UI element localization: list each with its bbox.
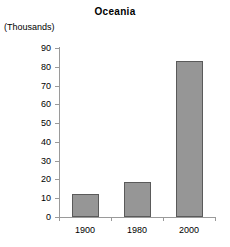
y-tick-label: 30 [29, 157, 51, 166]
y-tick-mark [55, 123, 59, 124]
y-tick-mark [55, 179, 59, 180]
x-tick-mark [215, 217, 216, 221]
y-tick-mark [55, 142, 59, 143]
y-tick-mark [55, 104, 59, 105]
bar-1980 [124, 182, 151, 217]
y-tick-label: 10 [29, 194, 51, 203]
y-tick-label: 90 [29, 44, 51, 53]
bar-2000 [176, 61, 203, 217]
y-tick-label: 20 [29, 175, 51, 184]
y-tick-label: 80 [29, 63, 51, 72]
x-tick-mark [59, 217, 60, 221]
x-tick-mark [163, 217, 164, 221]
bar-1900 [72, 194, 99, 217]
x-tick-label: 1980 [117, 225, 157, 235]
y-tick-label: 70 [29, 82, 51, 91]
x-tick-label: 2000 [169, 225, 209, 235]
x-axis-line [59, 217, 216, 218]
y-axis-line [59, 47, 60, 218]
chart-title: Oceania [0, 6, 230, 18]
y-tick-label: 40 [29, 138, 51, 147]
y-tick-label: 0 [29, 213, 51, 222]
y-tick-mark [55, 67, 59, 68]
y-tick-mark [55, 198, 59, 199]
y-axis-unit-label: (Thousands) [4, 22, 55, 33]
y-tick-label: 50 [29, 119, 51, 128]
y-tick-mark [55, 48, 59, 49]
x-tick-mark [111, 217, 112, 221]
y-tick-mark [55, 86, 59, 87]
x-tick-label: 1900 [65, 225, 105, 235]
y-tick-label: 60 [29, 100, 51, 109]
bar-chart: Oceania (Thousands) 0102030405060708090 … [0, 0, 230, 247]
y-tick-mark [55, 161, 59, 162]
